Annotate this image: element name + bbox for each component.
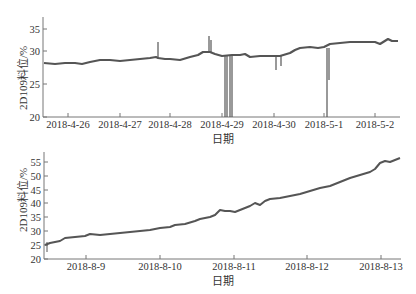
bottom-ytick-30: 30	[31, 226, 42, 237]
bottom-ytick-25: 25	[31, 240, 42, 251]
bottom-xtick-3: 2018-8-12	[285, 261, 329, 272]
bottom-ytick-45: 45	[31, 185, 42, 196]
bottom-xtick-2: 2018-8-11	[212, 261, 255, 272]
bottom-xtick-0: 2018-8-9	[67, 261, 106, 272]
bottom-series-line	[45, 158, 400, 245]
bottom-ytick-50: 50	[31, 171, 42, 182]
bottom-ytick-20: 20	[31, 254, 42, 265]
bottom-x-ticks: 2018-8-9 2018-8-10 2018-8-11 2018-8-12 2…	[67, 255, 403, 272]
bottom-y-ticks: 20 25 30 35 40 45 50 55	[31, 157, 49, 265]
bottom-ytick-40: 40	[31, 198, 42, 209]
bottom-ytick-55: 55	[31, 157, 42, 168]
bottom-ytick-35: 35	[31, 212, 42, 223]
bottom-xtick-1: 2018-8-10	[138, 261, 182, 272]
bottom-chart-plot: 20 25 30 35 40 45 50 55 2018-8-9 2018-8-…	[0, 0, 416, 294]
bottom-chart: 20 25 30 35 40 45 50 55 2018-8-9 2018-8-…	[0, 0, 416, 294]
bottom-y-axis-label: 2D109料位/%	[14, 168, 30, 232]
bottom-xtick-4: 2018-8-13	[359, 261, 403, 272]
bottom-x-axis-label: 日期	[212, 272, 234, 288]
